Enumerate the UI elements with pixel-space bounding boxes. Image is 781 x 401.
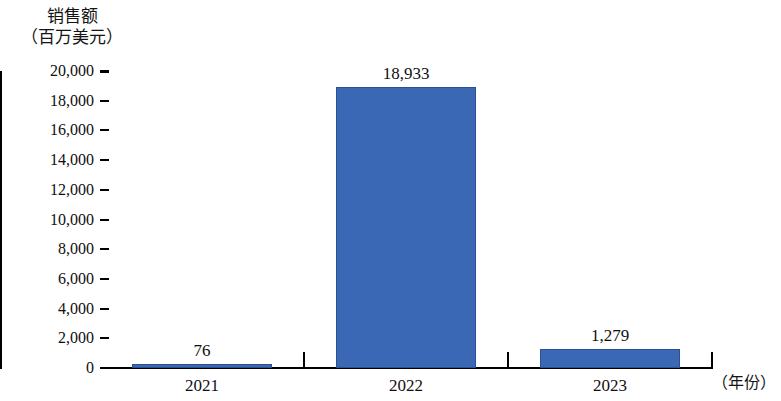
- bar-value-label: 1,279: [530, 327, 690, 344]
- y-axis-tick-label: 10,000: [2, 212, 94, 228]
- y-axis-tick-label: 14,000: [2, 152, 94, 168]
- y-axis-tick-label: 6,000: [2, 271, 94, 287]
- y-axis-tick: [100, 70, 109, 72]
- bar: [336, 87, 476, 368]
- y-axis-tick: [100, 219, 109, 221]
- x-axis-title: （年份）: [712, 375, 781, 391]
- y-axis-tick: [100, 278, 109, 280]
- y-axis-tick-label: 4,000: [2, 301, 94, 317]
- bar-value-label: 18,933: [326, 65, 486, 82]
- bar: [540, 349, 680, 368]
- x-axis-tick: [303, 352, 305, 368]
- x-axis-category-label: 2021: [122, 377, 282, 394]
- x-axis-tick: [507, 352, 509, 368]
- y-axis-title-line1: 销售额: [6, 6, 138, 27]
- y-axis-tick-label: 8,000: [2, 241, 94, 257]
- y-axis-tick: [100, 159, 109, 161]
- y-axis-title-line2: （百万美元）: [6, 27, 138, 48]
- y-axis-tick: [100, 189, 109, 191]
- y-axis-tick-label: 2,000: [2, 330, 94, 346]
- y-axis-tick: [100, 248, 109, 250]
- y-axis-tick-label: 18,000: [2, 93, 94, 109]
- y-axis-tick-label: 12,000: [2, 182, 94, 198]
- y-axis-tick: [100, 367, 109, 369]
- y-axis-tick: [100, 337, 109, 339]
- x-axis-end-cap: [711, 352, 713, 369]
- y-axis-tick: [100, 100, 109, 102]
- y-axis-tick-label: 0: [2, 360, 94, 376]
- y-axis-tick: [100, 129, 109, 131]
- x-axis-category-label: 2022: [326, 377, 486, 394]
- bar-chart: 销售额 （百万美元） 20,00018,00016,00014,00012,00…: [0, 0, 781, 401]
- y-axis-tick-label: 16,000: [2, 122, 94, 138]
- bar: [132, 364, 272, 368]
- y-axis-title: 销售额 （百万美元）: [6, 6, 138, 47]
- x-axis-category-label: 2023: [530, 377, 690, 394]
- y-axis-tick: [100, 308, 109, 310]
- bar-value-label: 76: [122, 342, 282, 359]
- y-axis-tick-label: 20,000: [2, 63, 94, 79]
